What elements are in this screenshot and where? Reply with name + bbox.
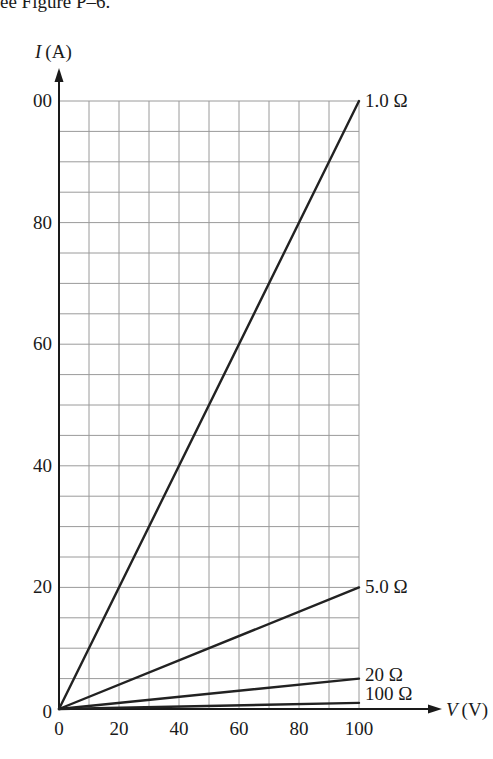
x-tick-label: 80 xyxy=(290,718,309,739)
series-label: 20 Ω xyxy=(365,664,403,685)
y-tick-label: 20 xyxy=(33,576,52,597)
x-tick-label: 60 xyxy=(230,718,249,739)
y-tick-label: 00 xyxy=(33,90,52,111)
x-tick-label: 40 xyxy=(170,718,189,739)
x-tick-label: 0 xyxy=(54,718,64,739)
series-label: 100 Ω xyxy=(365,683,412,704)
axes xyxy=(55,68,443,714)
y-axis-arrow-icon xyxy=(55,68,64,82)
y-tick-label: 80 xyxy=(33,212,52,233)
series-label: 1.0 Ω xyxy=(365,90,408,111)
x-tick-label: 100 xyxy=(345,718,374,739)
x-axis-arrow-icon xyxy=(428,705,442,714)
x-axis-label: V(V) xyxy=(446,699,488,721)
y-axis-label: I(A) xyxy=(34,41,72,63)
y-tick-label: 40 xyxy=(33,455,52,476)
series-label: 5.0 Ω xyxy=(365,576,408,597)
iv-chart: 02040608010002040608000 1.0 Ω5.0 Ω20 Ω10… xyxy=(0,0,493,759)
y-tick-label: 0 xyxy=(43,701,53,722)
x-tick-label: 20 xyxy=(110,718,129,739)
series-labels: 1.0 Ω5.0 Ω20 Ω100 Ω xyxy=(365,90,412,704)
y-tick-label: 60 xyxy=(33,333,52,354)
